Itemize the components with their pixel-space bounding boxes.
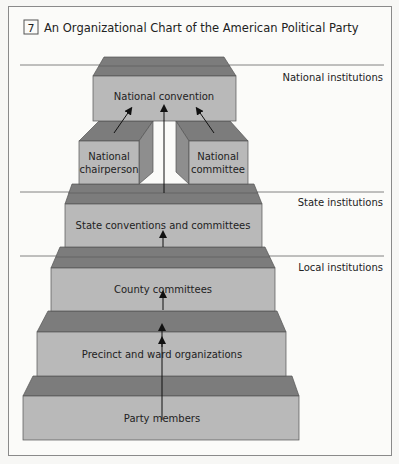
svg-text:National: National bbox=[88, 151, 130, 162]
svg-text:National: National bbox=[197, 151, 239, 162]
label-national-institutions: National institutions bbox=[283, 72, 384, 83]
svg-text:chairperson: chairperson bbox=[79, 164, 138, 175]
label-state-institutions: State institutions bbox=[298, 197, 383, 208]
label-local-institutions: Local institutions bbox=[298, 262, 383, 273]
figure-title: An Organizational Chart of the American … bbox=[44, 21, 359, 35]
figure-number: 7 bbox=[28, 22, 35, 35]
svg-text:County committees: County committees bbox=[114, 284, 212, 295]
svg-text:committee: committee bbox=[191, 164, 245, 175]
box-party-members: Party members bbox=[23, 376, 299, 440]
svg-text:National convention: National convention bbox=[114, 91, 214, 102]
org-chart: 7 An Organizational Chart of the America… bbox=[0, 0, 399, 464]
svg-text:State conventions and committe: State conventions and committees bbox=[76, 220, 251, 231]
